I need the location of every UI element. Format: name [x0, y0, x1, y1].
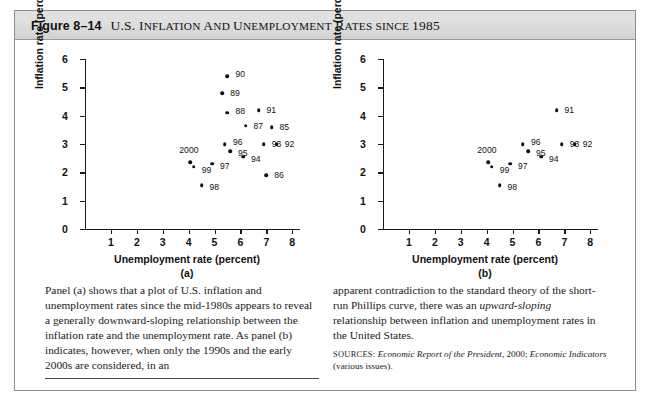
y-tick-3-b: [378, 144, 383, 145]
x-tick-label-3-a: 3: [153, 236, 173, 248]
panel-id-b: (b): [335, 267, 635, 279]
title-us: U.S.: [111, 18, 139, 33]
x-tick-3-a: [163, 229, 164, 234]
x-tick-label-1-b: 1: [399, 236, 419, 248]
caption-right-text-2: relationship between inflation and unemp…: [333, 314, 596, 341]
x-tick-label-8-a: 8: [282, 236, 302, 248]
y-tick-label-2-a: 2: [44, 166, 68, 178]
data-label-94-b: 94: [549, 154, 559, 164]
data-point-95-b: [526, 149, 530, 153]
data-label-95-a: 95: [238, 148, 248, 158]
x-axis-label-a: Unemployment rate (percent): [37, 253, 337, 265]
y-axis-label-a: Inflation rate (percent): [33, 0, 45, 89]
y-tick-label-0-b: 0: [342, 223, 366, 235]
x-tick-8-b: [590, 229, 591, 234]
title-sc-1: NFLATION: [144, 20, 201, 32]
x-tick-2-b: [435, 229, 436, 234]
y-tick-label-1-b: 1: [342, 195, 366, 207]
y-axis-line-b: [383, 59, 384, 229]
y-tick-5-a: [80, 87, 85, 88]
x-tick-label-8-b: 8: [580, 236, 600, 248]
caption-left-column: Panel (a) shows that a plot of U.S. infl…: [45, 283, 319, 374]
figure-container: Figure 8–14U.S. INFLATION AND UNEMPLOYME…: [14, 10, 636, 391]
x-tick-7-a: [266, 229, 267, 234]
title-and-cap: A: [201, 18, 214, 33]
y-tick-label-3-b: 3: [342, 138, 366, 150]
y-tick-2-b: [378, 172, 383, 173]
data-point-99-b: [490, 165, 494, 169]
y-tick-5-b: [378, 87, 383, 88]
y-tick-label-5-b: 5: [342, 81, 366, 93]
data-label-99-a: 99: [202, 165, 212, 175]
x-tick-4-a: [189, 229, 190, 234]
y-tick-label-6-a: 6: [44, 53, 68, 65]
data-point-91-b: [555, 108, 559, 112]
y-axis-label-b: Inflation rate (percent): [331, 0, 343, 89]
x-tick-2-a: [137, 229, 138, 234]
y-tick-1-b: [378, 201, 383, 202]
data-label-91-b: 91: [565, 105, 575, 115]
y-tick-label-2-b: 2: [342, 166, 366, 178]
source-title-2: Economic Indicators: [530, 349, 607, 359]
data-point-96-a: [223, 142, 227, 146]
y-tick-6-a: [80, 59, 85, 60]
x-tick-label-7-b: 7: [554, 236, 574, 248]
x-tick-label-6-a: 6: [230, 236, 250, 248]
y-tick-label-4-a: 4: [44, 110, 68, 122]
y-tick-label-1-a: 1: [44, 195, 68, 207]
title-and-sc: ND: [213, 20, 233, 32]
x-tick-1-a: [111, 229, 112, 234]
x-tick-5-b: [513, 229, 514, 234]
data-label-87-a: 87: [254, 121, 264, 131]
data-label-85-a: 85: [280, 122, 290, 132]
x-tick-label-4-b: 4: [477, 236, 497, 248]
x-tick-5-a: [215, 229, 216, 234]
sources-label: SOURCES:: [333, 350, 375, 359]
scatter-plot-panel-a: Inflation rate (percent) 012345612345678…: [37, 51, 337, 281]
y-tick-label-4-b: 4: [342, 110, 366, 122]
figure-title: U.S. INFLATION AND UNEMPLOYMENT RATES SI…: [111, 18, 440, 33]
data-label-90-a: 90: [235, 69, 245, 79]
y-tick-6-b: [378, 59, 383, 60]
data-point-95-a: [228, 149, 232, 153]
x-tick-8-a: [292, 229, 293, 234]
plot-axes-b: 0123456123456789192939495969798992000: [383, 59, 598, 229]
x-axis-line-a: [85, 229, 300, 230]
data-point-96-b: [521, 142, 525, 146]
y-tick-2-a: [80, 172, 85, 173]
x-tick-1-b: [409, 229, 410, 234]
x-tick-label-3-b: 3: [451, 236, 471, 248]
sources-line: SOURCES: Economic Report of the Presiden…: [333, 349, 607, 372]
data-point-90-a: [226, 74, 230, 78]
data-point-2000-a: [188, 161, 192, 165]
data-label-98-b: 98: [508, 182, 518, 192]
caption-left-text: Panel (a) shows that a plot of U.S. infl…: [45, 284, 312, 371]
source-title-1: Economic Report of the President,: [378, 349, 504, 359]
data-point-93-a: [262, 142, 266, 146]
x-tick-3-b: [461, 229, 462, 234]
title-year: 1985: [412, 18, 440, 33]
data-label-97-b: 97: [518, 161, 528, 171]
title-since: SINCE: [372, 20, 412, 32]
data-label-89-a: 89: [230, 88, 240, 98]
x-tick-6-b: [538, 229, 539, 234]
figure-title-inner: Figure 8–14U.S. INFLATION AND UNEMPLOYME…: [31, 16, 440, 34]
title-sc-2: NEMPLOYMENT: [243, 20, 332, 32]
y-tick-0-b: [378, 229, 383, 230]
data-point-98-a: [200, 183, 204, 187]
data-label-96-a: 96: [233, 137, 243, 147]
title-cap-2: U: [233, 18, 243, 33]
data-label-95-b: 95: [536, 148, 546, 158]
data-label-88-a: 88: [235, 106, 245, 116]
data-point-2000-b: [486, 161, 490, 165]
data-label-86-a: 86: [274, 170, 284, 180]
data-label-2000-a: 2000: [179, 145, 198, 155]
y-tick-label-0-a: 0: [44, 223, 68, 235]
x-tick-4-b: [487, 229, 488, 234]
y-tick-label-5-a: 5: [44, 81, 68, 93]
data-point-88-a: [226, 111, 230, 115]
x-tick-label-2-a: 2: [127, 236, 147, 248]
x-tick-label-7-a: 7: [256, 236, 276, 248]
data-label-92-a: 92: [285, 139, 295, 149]
panel-id-a: (a): [37, 267, 337, 279]
